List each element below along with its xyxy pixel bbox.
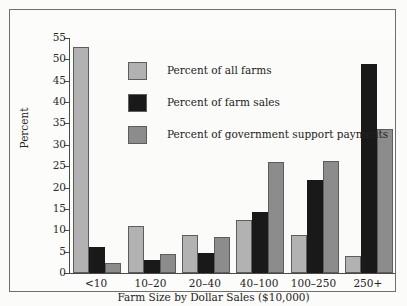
bar-40–100-series-0 (236, 220, 252, 273)
x-tick-label-40–100: 40–100 (240, 277, 279, 289)
bar-250+-series-0 (345, 256, 361, 273)
y-tick-label: 50 (53, 52, 66, 65)
legend-swatch-1 (128, 94, 147, 112)
bar-10–20-series-1 (144, 260, 160, 273)
x-tick-label-10–20: 10–20 (135, 277, 167, 289)
y-tick-label: 5 (59, 245, 66, 258)
x-tick-label-<10: <10 (85, 277, 107, 289)
legend-swatch-0 (128, 62, 147, 80)
bar-<10-series-1 (89, 247, 105, 273)
x-axis-line (69, 273, 395, 274)
bar-100–250-series-0 (291, 235, 307, 273)
bar-40–100-series-2 (268, 162, 284, 273)
legend-label-0: Percent of all farms (167, 63, 272, 78)
x-tick-label-100–250: 100–250 (291, 277, 336, 289)
bar-20–40-series-1 (198, 253, 214, 273)
legend-label-1: Percent of farm sales (167, 95, 280, 110)
legend-swatch-2 (128, 126, 147, 144)
y-axis-label: Percent (18, 108, 30, 149)
y-tick-label: 35 (53, 116, 66, 129)
y-tick-label: 25 (53, 159, 66, 172)
y-tick-label: 55 (53, 31, 66, 44)
x-tick-label-20–40: 20–40 (189, 277, 221, 289)
bar-<10-series-2 (105, 263, 121, 273)
chart-figure: Percent 0510152025303540455055 <1010–202… (0, 0, 407, 306)
bar-20–40-series-0 (182, 235, 198, 273)
bar-40–100-series-1 (252, 212, 268, 273)
bar-10–20-series-0 (128, 226, 144, 273)
x-axis-label: Farm Size by Dollar Sales ($10,000) (10, 291, 407, 303)
y-tick-label: 30 (53, 138, 66, 151)
y-tick-label: 10 (53, 223, 66, 236)
x-tick-label-250+: 250+ (353, 277, 382, 289)
y-tick-label: 0 (59, 266, 66, 279)
legend-label-2: Percent of government support payments (167, 127, 388, 142)
y-tick-label: 45 (53, 74, 66, 87)
bar-100–250-series-1 (307, 180, 323, 273)
y-tick-label: 20 (53, 181, 66, 194)
bar-<10-series-0 (73, 47, 89, 273)
y-tick-label: 15 (53, 202, 66, 215)
y-tick-label: 40 (53, 95, 66, 108)
bar-20–40-series-2 (214, 237, 230, 273)
bar-10–20-series-2 (160, 254, 176, 273)
bar-100–250-series-2 (323, 161, 339, 273)
bar-250+-series-2 (377, 129, 393, 273)
chart-frame: Percent 0510152025303540455055 <1010–202… (9, 9, 396, 292)
y-axis-line (69, 38, 70, 274)
bar-250+-series-1 (361, 64, 377, 273)
